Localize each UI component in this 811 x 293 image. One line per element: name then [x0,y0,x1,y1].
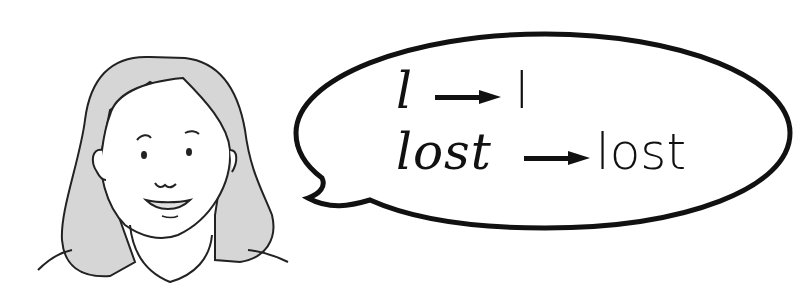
cursive-word: lost [396,127,492,177]
right-eye [186,148,192,156]
right-arrow-icon [524,151,590,165]
illustration-scene: l l lost lost [0,0,811,293]
girl-illustration [0,0,300,293]
print-letter: l [515,66,529,116]
cursive-letter: l [396,66,413,116]
left-eye [141,151,147,159]
right-arrow-icon [435,90,501,104]
bubble-line-2: lost lost [396,127,686,177]
print-word: lost [596,127,686,177]
bubble-line-1: l l [396,66,529,116]
